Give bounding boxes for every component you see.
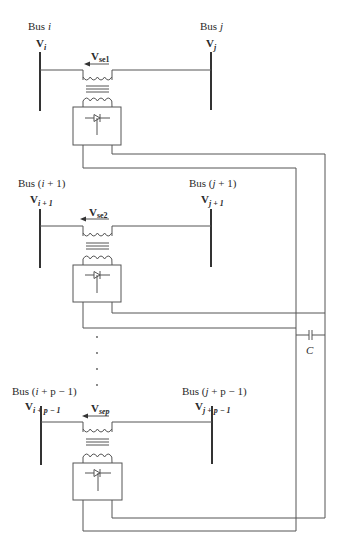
series-transformer-icon: [83, 233, 112, 265]
bus-ip1-label: Bus (i + p − 1): [12, 385, 77, 398]
bus-i-label: Bus i: [28, 20, 51, 32]
series-transformer-icon: [83, 429, 112, 463]
bus-j1-voltage: Vj + 1: [201, 193, 224, 208]
upfc-multi-line-diagram: Bus i Vi Bus j Vj Vse1: [0, 0, 344, 552]
line-left-segment: [41, 422, 83, 432]
bus-i1-voltage: Vi + 1: [30, 193, 53, 208]
thyristor-icon: [85, 469, 111, 491]
converter-2: [73, 265, 121, 302]
line-left-segment: [40, 226, 83, 236]
bus-i1-label: Bus (i + 1): [18, 177, 66, 190]
bus-jp1-label: Bus (j + p − 1): [182, 385, 247, 398]
dc-capacitor-icon: [296, 330, 325, 340]
dc-link-negative-1: [83, 145, 296, 168]
line-right-segment: [112, 422, 212, 432]
line-left-segment: [40, 70, 83, 80]
vse1-label: Vse1: [91, 50, 110, 64]
bus-j-voltage: Vj: [206, 37, 217, 52]
dc-link-negative-2: [83, 302, 296, 328]
bus-j1-label: Bus (j + 1): [189, 177, 237, 190]
bus-i-voltage: Vi: [36, 37, 47, 52]
ellipsis-dots: [96, 336, 98, 386]
line-right-segment: [112, 226, 211, 236]
thyristor-icon: [85, 114, 110, 135]
converter-p: [73, 463, 122, 500]
converter-1: [73, 107, 121, 145]
dc-link-positive-1: [112, 145, 325, 154]
thyristor-icon: [85, 271, 110, 293]
vsep-label: Vsep: [91, 402, 110, 416]
vse2-label: Vse2: [89, 206, 108, 220]
dc-link-negative-p: [83, 500, 296, 531]
capacitor-label: C: [306, 344, 314, 356]
section-2: Bus (i + 1) Vi + 1 Bus (j + 1) Vj + 1 Vs…: [18, 177, 325, 328]
dc-link-positive-p: [112, 500, 325, 518]
line-right-segment: [112, 70, 211, 80]
dc-link-positive-2: [112, 302, 325, 313]
bus-j-label: Bus j: [200, 20, 223, 32]
bus-ip1-voltage: Vi + p − 1: [25, 400, 61, 415]
section-3: Bus (i + p − 1) Vi + p − 1 Bus (j + p − …: [12, 385, 325, 531]
section-1: Bus i Vi Bus j Vj Vse1: [28, 20, 325, 168]
series-transformer-icon: [83, 77, 112, 107]
